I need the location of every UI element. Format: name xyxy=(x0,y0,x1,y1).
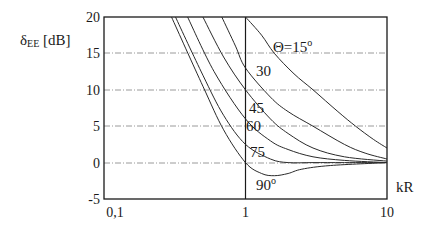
y-tick-10: 10 xyxy=(86,83,100,98)
label-90: 90o xyxy=(256,175,276,193)
x-axis-label: kR xyxy=(396,179,414,195)
y-tick-15: 15 xyxy=(86,46,100,61)
y-tick-minus5: -5 xyxy=(88,192,100,207)
x-tick-1: 1 xyxy=(242,205,249,220)
y-axis-label: δEE [dB] xyxy=(20,32,71,49)
label-theta-15: Θ=15o xyxy=(273,37,312,55)
y-tick-5: 5 xyxy=(93,119,100,134)
label-60: 60 xyxy=(246,118,261,134)
chart: δEE [dB] 20 15 10 5 0 -5 0,1 1 10 kR Θ=1… xyxy=(0,0,434,228)
y-tick-labels: 20 15 10 5 0 -5 xyxy=(86,10,100,207)
label-30: 30 xyxy=(256,63,271,79)
y-tick-20: 20 xyxy=(86,10,100,25)
label-45: 45 xyxy=(249,100,264,116)
x-tick-0-1: 0,1 xyxy=(106,205,124,220)
x-tick-labels: 0,1 1 10 xyxy=(106,205,394,220)
y-tick-0: 0 xyxy=(93,156,100,171)
label-75: 75 xyxy=(250,144,265,160)
x-tick-10: 10 xyxy=(380,205,394,220)
